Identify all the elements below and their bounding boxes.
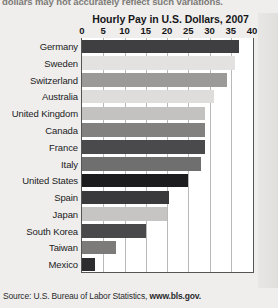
source-prefix: Source: U.S. Bureau of Labor Statistics,	[3, 291, 149, 301]
bar	[82, 56, 235, 70]
bar-row: Canada	[0, 122, 278, 139]
bar	[82, 140, 205, 154]
x-tick-label: 10	[115, 25, 135, 36]
category-label: Mexico	[0, 259, 78, 270]
page-edge-shading	[258, 13, 278, 288]
bar	[82, 207, 167, 221]
bar	[82, 241, 116, 255]
bar-row: Spain	[0, 189, 278, 206]
category-label: South Korea	[0, 226, 78, 237]
x-tick-label: 25	[178, 25, 198, 36]
source-url: www.bls.gov.	[149, 291, 201, 301]
bar-row: United States	[0, 172, 278, 189]
bar-row: Italy	[0, 156, 278, 173]
bar-row: Australia	[0, 88, 278, 105]
bar-row: Taiwan	[0, 239, 278, 256]
bar	[82, 107, 205, 121]
x-axis-tick-labels: 0510152025303540	[0, 25, 278, 38]
bar	[82, 157, 201, 171]
category-label: Canada	[0, 125, 78, 136]
x-tick-label: 35	[221, 25, 241, 36]
bar-row: Japan	[0, 206, 278, 223]
x-tick-label: 0	[72, 25, 92, 36]
bar-rows: GermanySwedenSwitzerlandAustraliaUnited …	[0, 38, 278, 273]
category-label: Sweden	[0, 58, 78, 69]
x-tick-label: 5	[93, 25, 113, 36]
category-label: Italy	[0, 159, 78, 170]
bar	[82, 174, 188, 188]
bar-row: Switzerland	[0, 72, 278, 89]
x-tick-label: 20	[157, 25, 177, 36]
category-label: Taiwan	[0, 242, 78, 253]
category-label: Australia	[0, 91, 78, 102]
bar-row: Germany	[0, 38, 278, 55]
bar	[82, 40, 239, 54]
bar-row: Mexico	[0, 256, 278, 273]
bar-row: United Kingdom	[0, 105, 278, 122]
bar	[82, 90, 214, 104]
bar	[82, 224, 146, 238]
bar-row: South Korea	[0, 223, 278, 240]
x-tick-label: 30	[200, 25, 220, 36]
clipped-caption-text: dollars may not accurately reflect such …	[2, 0, 276, 7]
category-label: United States	[0, 175, 78, 186]
bar-row: Sweden	[0, 55, 278, 72]
x-tick-label: 15	[136, 25, 156, 36]
bar-row: France	[0, 139, 278, 156]
chart-figure: Hourly Pay in U.S. Dollars, 2007 0510152…	[0, 13, 278, 288]
category-label: France	[0, 142, 78, 153]
bar	[82, 73, 227, 87]
source-note: Source: U.S. Bureau of Labor Statistics,…	[3, 291, 201, 301]
category-label: Japan	[0, 209, 78, 220]
bar	[82, 191, 169, 205]
category-label: Spain	[0, 192, 78, 203]
category-label: Switzerland	[0, 75, 78, 86]
chart-title: Hourly Pay in U.S. Dollars, 2007	[78, 13, 263, 25]
bar	[82, 258, 95, 272]
category-label: United Kingdom	[0, 108, 78, 119]
bar	[82, 123, 205, 137]
category-label: Germany	[0, 41, 78, 52]
